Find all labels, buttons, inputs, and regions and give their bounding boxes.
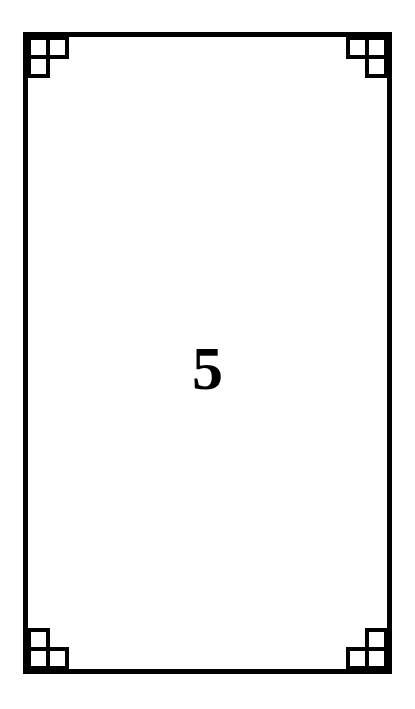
ornament-square bbox=[46, 647, 69, 670]
corner-ornament-bottom-left-icon bbox=[27, 624, 73, 670]
corner-ornament-top-left-icon bbox=[27, 36, 73, 82]
corner-ornament-top-right-icon bbox=[342, 36, 388, 82]
card-value: 5 bbox=[28, 337, 387, 399]
ornament-square bbox=[365, 647, 388, 670]
ornament-square bbox=[27, 55, 50, 78]
corner-ornament-bottom-right-icon bbox=[342, 624, 388, 670]
ornament-square bbox=[365, 55, 388, 78]
playing-card[interactable]: 5 bbox=[23, 32, 392, 674]
